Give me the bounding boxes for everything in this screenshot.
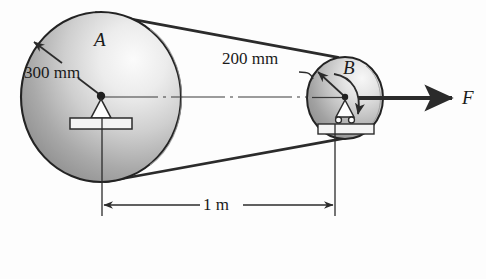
diagram-canvas xyxy=(0,0,486,279)
pulley-a-label: A xyxy=(94,30,106,49)
axis-centerline xyxy=(104,97,342,98)
support-a-base xyxy=(70,118,132,129)
center-distance-label: 1 m xyxy=(203,196,229,213)
radius-a-label: 300 mm xyxy=(24,64,80,81)
support-b-base xyxy=(318,124,374,134)
support-b-roller-right xyxy=(349,117,355,123)
support-b-roller-left xyxy=(336,117,342,123)
pulley-b-label: B xyxy=(343,58,355,77)
radius-b-label: 200 mm xyxy=(222,50,278,67)
figure-belt-drive: A B 300 mm 200 mm 1 m F xyxy=(0,0,486,279)
force-label: F xyxy=(462,88,474,107)
